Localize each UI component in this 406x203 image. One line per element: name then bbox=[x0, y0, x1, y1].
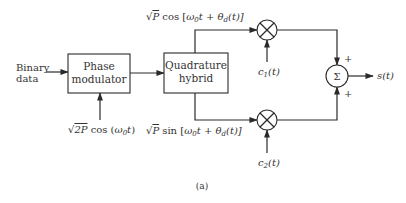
quadrature-hybrid-block: Quadrature hybrid bbox=[164, 53, 228, 93]
sigma-symbol: Σ bbox=[333, 71, 340, 82]
phase-modulator-block: Phase modulator bbox=[68, 54, 130, 93]
summer-block: Σ bbox=[326, 65, 348, 87]
carrier-label: √2P cos (ω0t) bbox=[68, 124, 135, 137]
binary-data-input: Binary data bbox=[16, 62, 68, 84]
phase-modulator-label-1: Phase bbox=[83, 60, 115, 72]
summer-plus-top: + bbox=[344, 53, 352, 64]
output-label: s(t) bbox=[377, 70, 394, 81]
quadrature-hybrid-label-2: hybrid bbox=[179, 72, 214, 84]
top-to-summer-wire bbox=[277, 30, 337, 65]
top-branch-label: √P cos [ω0t + θd(t)] bbox=[146, 11, 244, 24]
code2-label: c2(t) bbox=[258, 157, 280, 170]
phase-modulator-label-2: modulator bbox=[72, 73, 128, 85]
top-branch-wire bbox=[195, 30, 257, 53]
bottom-branch-wire bbox=[195, 93, 257, 120]
input-label-line1: Binary bbox=[16, 62, 50, 73]
bottom-to-summer-wire bbox=[277, 87, 337, 120]
summer-plus-bottom: + bbox=[344, 88, 352, 99]
figure-caption: (a) bbox=[196, 181, 208, 191]
bottom-multiplier bbox=[257, 110, 277, 130]
qpsk-transmitter-diagram: Binary data Phase modulator √2P cos (ω0t… bbox=[0, 0, 406, 203]
top-multiplier bbox=[257, 20, 277, 40]
bottom-branch-label: √P sin [ω0t + θd(t)] bbox=[146, 125, 242, 138]
quadrature-hybrid-label-1: Quadrature bbox=[165, 59, 227, 71]
code1-label: c1(t) bbox=[258, 66, 280, 79]
input-label-line2: data bbox=[16, 73, 38, 84]
